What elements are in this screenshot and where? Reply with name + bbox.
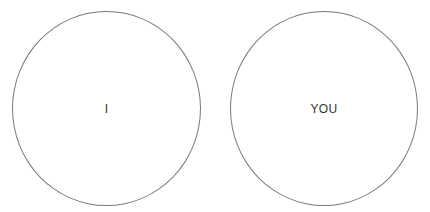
circle-you: YOU — [230, 11, 418, 206]
circle-i-label: I — [105, 102, 109, 116]
circle-i: I — [12, 11, 201, 206]
circle-you-label: YOU — [311, 102, 338, 116]
